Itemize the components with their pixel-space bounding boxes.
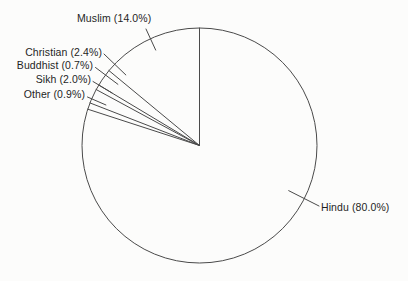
slice-label-other: Other (0.9%)	[24, 89, 85, 100]
leader-line-buddhist	[96, 68, 118, 85]
pie-chart-figure: Muslim (14.0%) Christian (2.4%) Buddhist…	[0, 0, 408, 281]
slice-label-sikh: Sikh (2.0%)	[36, 74, 91, 85]
slice-label-muslim: Muslim (14.0%)	[77, 13, 151, 24]
slice-divider-1	[109, 71, 200, 146]
slice-divider-5	[88, 109, 200, 145]
slice-label-buddhist: Buddhist (0.7%)	[17, 60, 93, 71]
slice-label-hindu: Hindu (80.0%)	[321, 202, 389, 213]
slice-label-christian: Christian (2.4%)	[25, 47, 102, 58]
slice-divider-2	[99, 85, 200, 145]
pie-chart	[0, 0, 408, 281]
leader-line-hindu	[289, 191, 319, 206]
slice-divider-4	[90, 103, 200, 146]
slice-divider-3	[96, 90, 199, 146]
leader-line-sikh	[93, 82, 112, 93]
leader-line-muslim	[146, 29, 156, 50]
